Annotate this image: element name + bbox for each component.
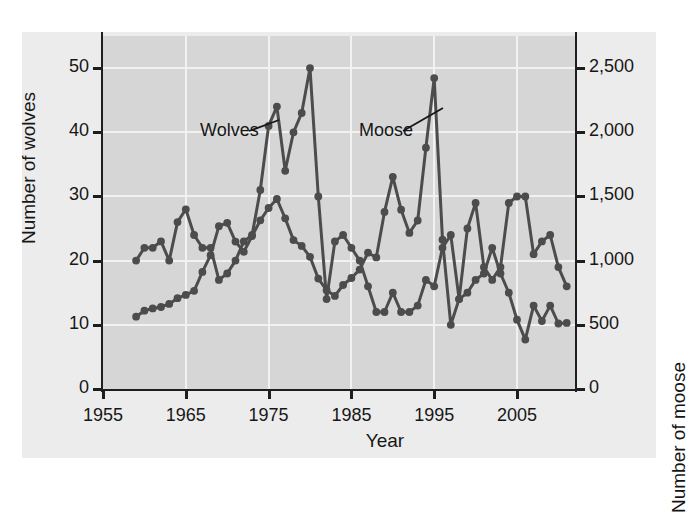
data-point (406, 308, 414, 316)
y-tick-label-right: 2,500 (589, 56, 634, 77)
data-point (199, 268, 207, 276)
data-point (157, 303, 165, 311)
data-point (149, 305, 157, 313)
data-point (256, 186, 264, 194)
x-tick (433, 391, 436, 399)
data-point (182, 291, 190, 299)
y-axis-right (575, 32, 577, 392)
series-line (136, 78, 567, 340)
data-point (223, 219, 231, 227)
data-point (381, 208, 389, 216)
data-point (348, 244, 356, 252)
data-point (389, 173, 397, 181)
x-tick (185, 391, 188, 399)
data-point (505, 289, 513, 297)
y-tick-right (577, 67, 585, 70)
plot-area: 0010500201,000301,500402,000502,50019551… (103, 36, 575, 389)
x-tick (350, 391, 353, 399)
x-tick (268, 391, 271, 399)
data-point (381, 308, 389, 316)
y-tick-left (93, 260, 101, 263)
y-tick-label-right: 500 (589, 313, 619, 334)
data-point (165, 300, 173, 308)
data-point (414, 302, 422, 310)
data-point (331, 238, 339, 246)
data-point (240, 248, 248, 256)
data-point (538, 317, 546, 325)
data-point (447, 321, 455, 329)
data-point (497, 270, 505, 278)
data-point (232, 238, 240, 246)
y-tick-left (93, 195, 101, 198)
data-point (372, 254, 380, 262)
x-tick-label: 1985 (331, 405, 371, 426)
y-axis-right-title: Number of moose (668, 362, 690, 513)
x-tick (516, 391, 519, 399)
y-tick-right (577, 131, 585, 134)
x-tick (102, 391, 105, 399)
data-point (132, 257, 140, 265)
data-point (273, 195, 281, 203)
y-tick-label-right: 2,000 (589, 120, 634, 141)
data-point (472, 199, 480, 207)
x-tick-label: 1995 (414, 405, 454, 426)
data-point (447, 231, 455, 239)
data-point (248, 232, 256, 240)
data-point (563, 319, 571, 327)
y-tick-label-right: 1,500 (589, 184, 634, 205)
data-point (530, 250, 538, 258)
data-point (422, 276, 430, 284)
data-point (215, 222, 223, 230)
data-point (323, 286, 331, 294)
x-tick-label: 1975 (249, 405, 289, 426)
y-tick-right (577, 195, 585, 198)
y-tick-label-left: 40 (69, 120, 89, 141)
y-tick-label-left: 0 (79, 377, 89, 398)
data-point (190, 287, 198, 295)
annotation-wolves: Wolves (200, 120, 259, 141)
y-tick-right (577, 388, 585, 391)
data-point (538, 238, 546, 246)
data-point (273, 103, 281, 111)
data-point (331, 292, 339, 300)
data-point (422, 144, 430, 152)
data-point (555, 320, 563, 328)
data-series-lines (103, 36, 575, 389)
data-point (215, 276, 223, 284)
y-tick-left (93, 388, 101, 391)
data-point (207, 251, 215, 259)
data-point (406, 229, 414, 237)
data-point (546, 302, 554, 310)
y-tick-right (577, 324, 585, 327)
data-point (488, 276, 496, 284)
data-point (513, 316, 521, 324)
data-point (165, 257, 173, 265)
data-point (348, 274, 356, 282)
y-tick-label-left: 30 (69, 184, 89, 205)
data-point (306, 253, 314, 261)
data-point (389, 289, 397, 297)
data-point (314, 193, 322, 201)
y-tick-right (577, 260, 585, 263)
data-point (555, 263, 563, 271)
y-tick-left (93, 324, 101, 327)
x-axis (101, 389, 578, 391)
data-point (397, 206, 405, 214)
data-point (414, 217, 422, 225)
data-point (149, 244, 157, 252)
data-point (455, 295, 463, 303)
data-point (290, 236, 298, 244)
data-point (546, 231, 554, 239)
data-point (372, 308, 380, 316)
data-point (364, 249, 372, 257)
data-point (141, 244, 149, 252)
data-point (182, 205, 190, 213)
data-point (464, 225, 472, 233)
data-point (505, 199, 513, 207)
y-axis-left-title: Number of wolves (18, 92, 40, 244)
x-tick-label: 2005 (497, 405, 537, 426)
y-tick-label-left: 50 (69, 56, 89, 77)
data-point (306, 64, 314, 72)
data-point (488, 244, 496, 252)
data-point (290, 128, 298, 136)
